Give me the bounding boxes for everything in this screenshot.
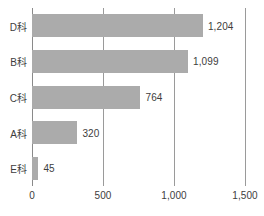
bar	[32, 50, 188, 73]
plot-area: D科1,204B科1,099C科764A科320E科45	[32, 8, 245, 186]
x-tick-label: 0	[29, 190, 35, 201]
bar-value-label: 764	[145, 92, 162, 103]
category-label: B科	[10, 54, 27, 69]
bar-chart: D科1,204B科1,099C科764A科320E科45 05001,0001,…	[0, 0, 264, 216]
bar-value-label: 1,204	[208, 20, 234, 31]
category-label: E科	[10, 161, 27, 176]
gridline-1500	[245, 8, 246, 186]
bar-row: E科45	[32, 157, 245, 180]
bar	[32, 121, 77, 144]
bar-series: D科1,204B科1,099C科764A科320E科45	[32, 8, 245, 186]
bar	[32, 14, 203, 37]
bar-value-label: 1,099	[193, 56, 219, 67]
bar-row: C科764	[32, 86, 245, 109]
bar-value-label: 45	[43, 163, 54, 174]
category-label: D科	[10, 18, 27, 33]
x-tick-label: 1,000	[161, 190, 187, 201]
bar-row: B科1,099	[32, 50, 245, 73]
category-label: C科	[10, 90, 27, 105]
bar-row: A科320	[32, 121, 245, 144]
bar	[32, 157, 38, 180]
x-tick-label: 1,500	[232, 190, 258, 201]
bar-row: D科1,204	[32, 14, 245, 37]
bar	[32, 86, 140, 109]
x-tick-label: 500	[95, 190, 112, 201]
bar-value-label: 320	[82, 127, 99, 138]
category-label: A科	[10, 125, 27, 140]
